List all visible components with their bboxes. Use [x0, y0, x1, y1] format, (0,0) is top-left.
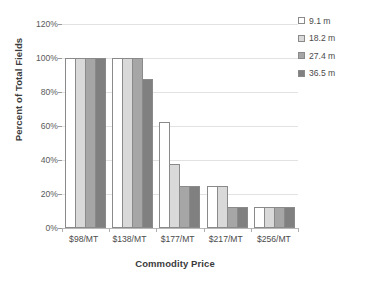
x-axis-tick-labels: $98/MT$138/MT$177/MT$217/MT$256/MT	[62, 234, 298, 250]
x-tick-mark	[109, 228, 110, 232]
bar	[237, 207, 248, 228]
axis-baseline	[62, 228, 298, 229]
x-tick-label: $98/MT	[69, 234, 98, 250]
legend-label: 9.1 m	[309, 16, 331, 26]
y-tick-label: 40%	[18, 155, 58, 165]
x-tick-label: $256/MT	[257, 234, 291, 250]
legend-swatch-icon	[298, 52, 305, 59]
bar-group	[207, 24, 248, 228]
legend-item[interactable]: 9.1 m	[298, 16, 362, 25]
bar-group	[112, 24, 153, 228]
y-tick-label: 0%	[18, 223, 58, 233]
x-tick-mark	[156, 228, 157, 232]
bar-group	[254, 24, 295, 228]
plot-area	[62, 24, 298, 228]
y-axis-tick-labels: 0%20%40%60%80%100%120%	[14, 24, 58, 228]
x-tick-label: $138/MT	[112, 234, 146, 250]
bar-group	[159, 24, 200, 228]
y-tick-label: 120%	[18, 19, 58, 29]
legend-item[interactable]: 18.2 m	[298, 34, 362, 43]
bar-chart: Percent of Total Fields 0%20%40%60%80%10…	[0, 0, 365, 285]
legend-label: 27.4 m	[309, 51, 335, 61]
bar	[189, 186, 200, 229]
x-tick-mark	[204, 228, 205, 232]
legend-swatch-icon	[298, 17, 305, 24]
x-tick-label: $217/MT	[209, 234, 243, 250]
x-tick-mark	[251, 228, 252, 232]
x-tick-mark	[62, 228, 63, 232]
legend-swatch-icon	[298, 35, 305, 42]
x-axis-title: Commodity Price	[45, 258, 305, 269]
y-tick-label: 80%	[18, 87, 58, 97]
y-tick-label: 60%	[18, 121, 58, 131]
legend-label: 36.5 m	[309, 68, 335, 78]
legend-item[interactable]: 36.5 m	[298, 69, 362, 78]
bar	[95, 58, 106, 228]
legend-swatch-icon	[298, 70, 305, 77]
bar-group	[65, 24, 106, 228]
x-tick-mark	[298, 228, 299, 232]
legend-label: 18.2 m	[309, 33, 335, 43]
bar	[284, 207, 295, 228]
y-tick-label: 100%	[18, 53, 58, 63]
bar	[142, 79, 153, 228]
bar-groups	[62, 24, 298, 228]
legend: 9.1 m18.2 m27.4 m36.5 m	[298, 16, 362, 86]
legend-item[interactable]: 27.4 m	[298, 51, 362, 60]
x-tick-label: $177/MT	[161, 234, 195, 250]
y-tick-label: 20%	[18, 189, 58, 199]
